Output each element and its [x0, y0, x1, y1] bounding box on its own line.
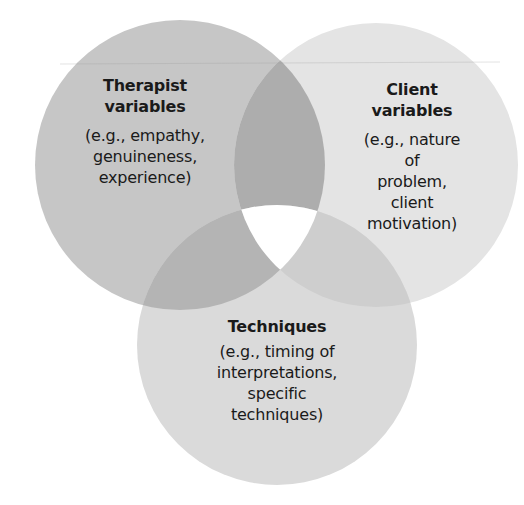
client-title-line2: variables	[356, 100, 468, 121]
client-title-line1: Client	[356, 79, 468, 100]
techniques-label: Techniques (e.g., timing of interpretati…	[217, 316, 337, 425]
therapist-title-line1: Therapist	[85, 75, 205, 96]
therapist-desc-line3: experience)	[85, 167, 205, 188]
client-desc-line3: motivation)	[356, 213, 468, 234]
techniques-desc-line3: specific	[217, 383, 337, 404]
client-label: Client variables (e.g., nature of proble…	[356, 79, 468, 234]
therapist-title-line2: variables	[85, 96, 205, 117]
techniques-desc-line2: interpretations,	[217, 362, 337, 383]
therapist-desc: (e.g., empathy, genuineness, experience)	[85, 125, 205, 188]
techniques-title: Techniques	[217, 316, 337, 337]
client-desc-line2: problem, client	[356, 171, 468, 213]
therapist-label: Therapist variables (e.g., empathy, genu…	[85, 75, 205, 188]
techniques-desc-line1: (e.g., timing of	[217, 341, 337, 362]
client-desc-line1: (e.g., nature of	[356, 129, 468, 171]
therapist-desc-line2: genuineness,	[85, 146, 205, 167]
client-desc: (e.g., nature of problem, client motivat…	[356, 129, 468, 234]
therapist-desc-line1: (e.g., empathy,	[85, 125, 205, 146]
techniques-desc: (e.g., timing of interpretations, specif…	[217, 341, 337, 425]
techniques-desc-line4: techniques)	[217, 404, 337, 425]
venn-diagram	[0, 0, 524, 505]
